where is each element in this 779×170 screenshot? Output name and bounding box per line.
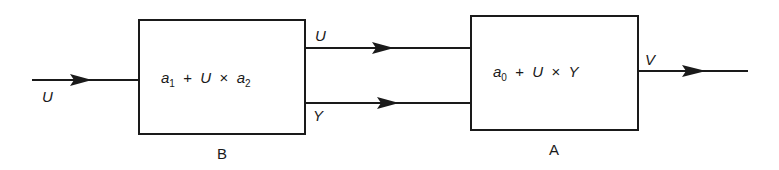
u-signal-label: U bbox=[315, 28, 326, 43]
block-b-caption: B bbox=[217, 146, 227, 161]
block-a-formula: a0 + U × Y bbox=[493, 64, 578, 83]
formula-operator: × bbox=[220, 69, 229, 86]
formula-term: a bbox=[237, 69, 245, 86]
formula-term: Y bbox=[568, 63, 578, 80]
output-signal-label: V bbox=[645, 52, 655, 67]
formula-subscript: 0 bbox=[501, 72, 507, 83]
formula-subscript: 2 bbox=[245, 78, 251, 89]
block-b-formula: a1 + U × a2 bbox=[161, 70, 251, 89]
y-signal-label: Y bbox=[313, 108, 323, 123]
formula-term: U bbox=[532, 63, 543, 80]
input-signal-label: U bbox=[42, 89, 53, 104]
formula-operator: + bbox=[183, 69, 192, 86]
formula-operator: + bbox=[515, 63, 524, 80]
formula-subscript: 1 bbox=[169, 78, 175, 89]
diagram-canvas bbox=[0, 0, 779, 170]
block-a-caption: A bbox=[549, 142, 559, 157]
formula-term: U bbox=[200, 69, 211, 86]
formula-operator: × bbox=[552, 63, 561, 80]
